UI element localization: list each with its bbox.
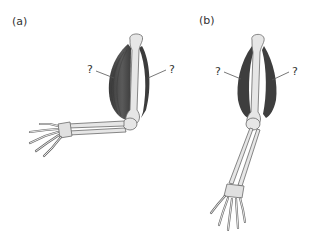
arm-b — [211, 34, 289, 230]
leader-b-front — [224, 72, 241, 79]
ulna-a — [69, 128, 126, 135]
muscle-b-back — [262, 46, 277, 118]
leader-a-back — [148, 70, 166, 78]
arm-a — [30, 34, 166, 156]
muscle-a-back — [139, 46, 149, 118]
radius-a — [68, 121, 124, 128]
arm-diagram — [0, 0, 312, 241]
